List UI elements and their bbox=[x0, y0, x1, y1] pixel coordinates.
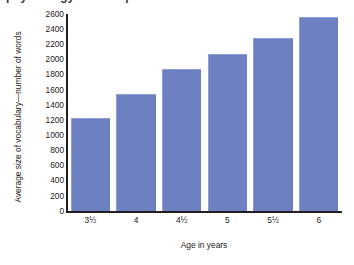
x-axis-line bbox=[66, 211, 342, 213]
y-tick-label: 1800 bbox=[46, 70, 64, 78]
x-axis-title: Age in years bbox=[66, 240, 342, 250]
plot-area bbox=[66, 14, 342, 211]
bar-6 bbox=[299, 17, 338, 211]
y-tick-label: 1400 bbox=[46, 101, 64, 109]
y-tick-label: 2000 bbox=[46, 55, 64, 63]
bar-3½ bbox=[71, 118, 110, 211]
bar-5½ bbox=[253, 38, 292, 211]
bar-series bbox=[68, 14, 342, 211]
x-tick-label: 6 bbox=[296, 215, 342, 225]
y-tick-label: 800 bbox=[50, 146, 64, 154]
x-tick-label: 4 bbox=[113, 215, 159, 225]
y-tick-label: 2200 bbox=[46, 40, 64, 48]
y-tick-label: 2600 bbox=[46, 10, 64, 18]
bar-4½ bbox=[162, 69, 201, 211]
y-tick-label: 400 bbox=[50, 176, 64, 184]
bar-chart: Average size of vocabulary—number of wor… bbox=[0, 0, 354, 265]
y-tick-label: 200 bbox=[50, 192, 64, 200]
bar-4 bbox=[116, 94, 155, 211]
x-tick-label: 3½ bbox=[68, 215, 114, 225]
y-tick-label: 1000 bbox=[46, 131, 64, 139]
x-tick-label: 5 bbox=[205, 215, 251, 225]
y-tick-label: 1200 bbox=[46, 116, 64, 124]
x-axis-tick-labels: 3½44½55½6 bbox=[66, 215, 342, 229]
y-axis-title: Average size of vocabulary—number of wor… bbox=[13, 17, 23, 217]
y-tick-label: 600 bbox=[50, 161, 64, 169]
bar-5 bbox=[208, 54, 247, 211]
y-tick-label: 0 bbox=[59, 207, 64, 215]
x-tick-label: 4½ bbox=[159, 215, 205, 225]
y-tick-label: 2400 bbox=[46, 25, 64, 33]
x-tick-label: 5½ bbox=[250, 215, 296, 225]
y-tick-label: 1600 bbox=[46, 86, 64, 94]
y-axis-tick-labels: 2600240022002000180016001400120010008006… bbox=[28, 14, 64, 214]
